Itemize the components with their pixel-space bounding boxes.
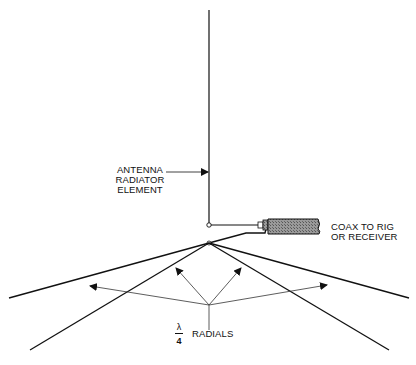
lambda-numerator: λ (174, 322, 184, 332)
radial-left-outer (9, 243, 209, 298)
fraction-bar (175, 333, 183, 334)
coax-label-line-2: OR RECEIVER (331, 232, 416, 242)
quarter-denominator: 4 (174, 336, 184, 346)
coax-ferrule (263, 220, 268, 230)
radial-right-inner (209, 243, 389, 350)
radials-callout-arrow-3 (209, 268, 241, 305)
radiator-base-insulator (207, 223, 211, 227)
radiator-label-line-3: ELEMENT (115, 185, 165, 195)
radials-callout-arrow-2 (176, 268, 209, 305)
radials-callout-arrow-1 (90, 286, 209, 305)
coax-label: COAX TO RIG OR RECEIVER (331, 222, 416, 242)
radiator-label: ANTENNA RADIATOR ELEMENT (115, 165, 165, 195)
radials-label: RADIALS (192, 329, 233, 339)
antenna-diagram (0, 0, 416, 365)
coax-cable (268, 219, 320, 234)
shield-lead (209, 229, 266, 243)
coax-center-pin (258, 222, 263, 228)
